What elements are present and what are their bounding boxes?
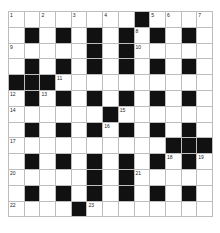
grid-cell[interactable]: 6 <box>166 12 182 28</box>
grid-cell[interactable] <box>103 138 119 154</box>
grid-cell[interactable] <box>166 123 182 139</box>
grid-cell[interactable] <box>72 170 88 186</box>
grid-cell[interactable] <box>135 138 151 154</box>
grid-cell[interactable] <box>135 107 151 123</box>
grid-cell[interactable] <box>119 138 135 154</box>
grid-cell[interactable]: 5 <box>150 12 166 28</box>
grid-cell[interactable] <box>9 154 25 170</box>
grid-cell[interactable] <box>9 28 25 44</box>
grid-cell[interactable] <box>103 91 119 107</box>
grid-cell[interactable]: 1 <box>9 12 25 28</box>
grid-cell[interactable]: 12 <box>9 91 25 107</box>
grid-cell[interactable] <box>40 202 56 218</box>
grid-cell[interactable] <box>150 138 166 154</box>
grid-cell[interactable]: 8 <box>135 28 151 44</box>
grid-cell[interactable] <box>197 28 213 44</box>
grid-cell[interactable] <box>166 202 182 218</box>
grid-cell[interactable]: 10 <box>135 44 151 60</box>
grid-cell[interactable]: 14 <box>9 107 25 123</box>
grid-cell[interactable] <box>87 12 103 28</box>
grid-cell[interactable] <box>25 12 41 28</box>
grid-cell[interactable] <box>182 170 198 186</box>
grid-cell[interactable] <box>72 91 88 107</box>
grid-cell[interactable] <box>166 186 182 202</box>
grid-cell[interactable] <box>197 59 213 75</box>
grid-cell[interactable] <box>25 107 41 123</box>
grid-cell[interactable] <box>135 202 151 218</box>
grid-cell[interactable] <box>197 202 213 218</box>
grid-cell[interactable] <box>166 59 182 75</box>
grid-cell[interactable] <box>56 170 72 186</box>
grid-cell[interactable] <box>119 12 135 28</box>
grid-cell[interactable] <box>197 186 213 202</box>
grid-cell[interactable]: 17 <box>9 138 25 154</box>
grid-cell[interactable] <box>40 123 56 139</box>
grid-cell[interactable] <box>166 91 182 107</box>
grid-cell[interactable] <box>87 138 103 154</box>
grid-cell[interactable]: 16 <box>103 123 119 139</box>
grid-cell[interactable] <box>56 138 72 154</box>
grid-cell[interactable] <box>40 107 56 123</box>
grid-cell[interactable] <box>182 202 198 218</box>
grid-cell[interactable] <box>87 107 103 123</box>
grid-cell[interactable] <box>72 154 88 170</box>
grid-cell[interactable]: 19 <box>197 154 213 170</box>
grid-cell[interactable] <box>72 59 88 75</box>
grid-cell[interactable] <box>72 107 88 123</box>
grid-cell[interactable]: 13 <box>40 91 56 107</box>
grid-cell[interactable] <box>103 170 119 186</box>
grid-cell[interactable] <box>56 202 72 218</box>
grid-cell[interactable] <box>103 186 119 202</box>
grid-cell[interactable] <box>135 186 151 202</box>
grid-cell[interactable] <box>72 28 88 44</box>
grid-cell[interactable] <box>150 75 166 91</box>
grid-cell[interactable] <box>103 75 119 91</box>
grid-cell[interactable] <box>197 170 213 186</box>
grid-cell[interactable] <box>166 75 182 91</box>
grid-cell[interactable] <box>40 44 56 60</box>
grid-cell[interactable] <box>166 107 182 123</box>
grid-cell[interactable] <box>166 44 182 60</box>
grid-cell[interactable] <box>25 138 41 154</box>
grid-cell[interactable] <box>103 44 119 60</box>
grid-cell[interactable] <box>9 186 25 202</box>
grid-cell[interactable] <box>9 59 25 75</box>
grid-cell[interactable] <box>72 186 88 202</box>
grid-cell[interactable] <box>72 44 88 60</box>
grid-cell[interactable] <box>182 107 198 123</box>
grid-cell[interactable] <box>40 59 56 75</box>
grid-cell[interactable]: 23 <box>87 202 103 218</box>
grid-cell[interactable] <box>197 75 213 91</box>
grid-cell[interactable] <box>197 91 213 107</box>
grid-cell[interactable] <box>103 28 119 44</box>
grid-cell[interactable]: 22 <box>9 202 25 218</box>
grid-cell[interactable] <box>135 91 151 107</box>
grid-cell[interactable]: 11 <box>56 75 72 91</box>
grid-cell[interactable]: 15 <box>119 107 135 123</box>
grid-cell[interactable] <box>135 59 151 75</box>
grid-cell[interactable] <box>119 202 135 218</box>
grid-cell[interactable] <box>87 75 103 91</box>
grid-cell[interactable] <box>40 154 56 170</box>
grid-cell[interactable]: 20 <box>9 170 25 186</box>
grid-cell[interactable] <box>40 28 56 44</box>
grid-cell[interactable] <box>197 107 213 123</box>
grid-cell[interactable] <box>182 75 198 91</box>
grid-cell[interactable]: 2 <box>40 12 56 28</box>
grid-cell[interactable] <box>103 202 119 218</box>
grid-cell[interactable] <box>166 170 182 186</box>
grid-cell[interactable] <box>197 44 213 60</box>
grid-cell[interactable]: 21 <box>135 170 151 186</box>
grid-cell[interactable] <box>103 154 119 170</box>
grid-cell[interactable] <box>103 59 119 75</box>
grid-cell[interactable] <box>150 44 166 60</box>
grid-cell[interactable] <box>119 75 135 91</box>
grid-cell[interactable]: 3 <box>72 12 88 28</box>
grid-cell[interactable] <box>72 138 88 154</box>
grid-cell[interactable] <box>135 123 151 139</box>
grid-cell[interactable]: 7 <box>197 12 213 28</box>
grid-cell[interactable] <box>150 170 166 186</box>
grid-cell[interactable] <box>9 123 25 139</box>
grid-cell[interactable] <box>56 107 72 123</box>
grid-cell[interactable] <box>182 12 198 28</box>
